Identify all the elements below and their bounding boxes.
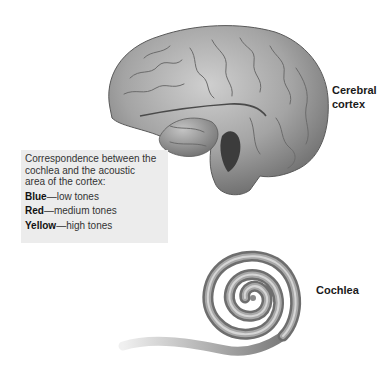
legend-color-name: Blue	[25, 191, 47, 202]
legend-entry-red: Red—medium tones	[25, 205, 168, 217]
legend-color-name: Yellow	[25, 220, 56, 231]
cerebral-cortex-label-line2: cortex	[332, 97, 377, 111]
tone-correspondence-legend: Correspondence between the cochlea and t…	[21, 150, 168, 243]
legend-separator: —	[44, 205, 54, 216]
legend-entry-yellow: Yellow—high tones	[25, 220, 168, 232]
legend-description: medium tones	[54, 205, 117, 216]
legend-description: high tones	[66, 220, 112, 231]
legend-description: low tones	[57, 191, 99, 202]
cerebral-cortex-label-line1: Cerebral	[332, 83, 377, 97]
legend-separator: —	[56, 220, 66, 231]
legend-intro-line3: area of the cortex:	[25, 176, 168, 188]
legend-entry-blue: Blue—low tones	[25, 191, 168, 203]
legend-color-name: Red	[25, 205, 44, 216]
cerebral-cortex-label: Cerebral cortex	[332, 83, 377, 111]
legend-intro: Correspondence between the cochlea and t…	[25, 153, 168, 188]
legend-intro-line2: cochlea and the acoustic	[25, 165, 168, 177]
cochlea-label: Cochlea	[316, 283, 359, 297]
legend-separator: —	[47, 191, 57, 202]
legend-intro-line1: Correspondence between the	[25, 153, 168, 165]
cochlea-illustration	[115, 248, 310, 369]
